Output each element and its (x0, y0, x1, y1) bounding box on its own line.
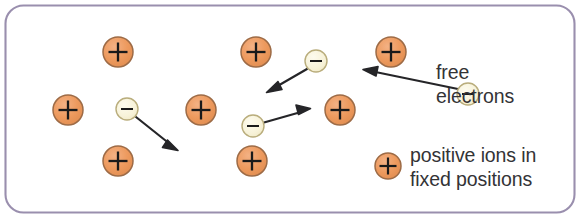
free-electrons-label: free electrons (436, 61, 514, 108)
free-electron (116, 98, 138, 120)
free-electron (305, 50, 327, 72)
positive-ion (53, 95, 83, 125)
positive-ions-label-line2: fixed positions (410, 168, 536, 192)
positive-ion (376, 37, 406, 67)
metallic-conduction-diagram: free electrons positive ions in fixed po… (0, 0, 582, 219)
positive-ion (325, 95, 355, 125)
legend-positive-ion-icon (375, 153, 401, 179)
free-electrons-label-line2: electrons (436, 85, 514, 109)
positive-ion (186, 95, 216, 125)
positive-ions-label: positive ions in fixed positions (410, 144, 536, 191)
positive-ion (241, 37, 271, 67)
free-electrons-label-line1: free (436, 61, 514, 85)
positive-ions-label-line1: positive ions in (410, 144, 536, 168)
positive-ion (103, 37, 133, 67)
positive-ion (237, 146, 267, 176)
free-electron (242, 115, 264, 137)
positive-ion (103, 146, 133, 176)
